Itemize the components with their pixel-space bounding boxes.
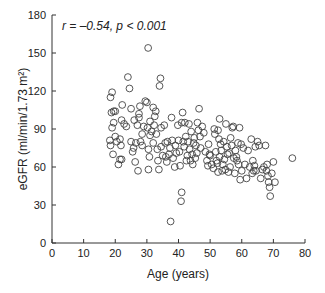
data-point <box>118 142 125 149</box>
y-axis-label: eGFR (ml/min/1.73 m²) <box>16 68 30 191</box>
data-point <box>184 152 191 159</box>
data-point <box>243 175 250 182</box>
data-point <box>235 161 242 168</box>
x-tick-label: 60 <box>236 247 248 259</box>
data-point <box>168 114 175 121</box>
data-point <box>110 108 117 115</box>
data-point <box>157 75 164 82</box>
data-point <box>216 115 223 122</box>
data-point <box>146 153 153 160</box>
data-point <box>199 123 206 130</box>
data-point <box>137 138 144 145</box>
y-tick-label: 90 <box>34 123 46 135</box>
data-point <box>289 155 296 162</box>
data-points <box>106 45 295 225</box>
axes <box>52 15 305 243</box>
data-point <box>139 131 146 138</box>
data-point <box>175 137 182 144</box>
data-point <box>156 83 163 90</box>
data-point <box>167 218 174 225</box>
data-point <box>125 74 132 81</box>
x-axis-ticks: 01020304050607080 <box>49 239 311 259</box>
data-point <box>107 142 114 149</box>
data-point <box>145 146 152 153</box>
x-tick-label: 0 <box>49 247 55 259</box>
data-point <box>238 167 245 174</box>
data-point <box>194 119 201 126</box>
data-point <box>205 141 212 148</box>
y-tick-label: 60 <box>34 161 46 173</box>
data-point <box>147 132 154 139</box>
data-point <box>172 142 179 149</box>
data-point <box>257 175 264 182</box>
data-point <box>200 129 207 136</box>
scatter-chart: 0306090120150180 01020304050607080 r = –… <box>0 0 325 293</box>
data-point <box>143 99 150 106</box>
data-point <box>110 151 117 158</box>
data-point <box>256 142 263 149</box>
data-point <box>112 108 119 115</box>
y-tick-label: 150 <box>28 47 46 59</box>
y-tick-label: 0 <box>40 237 46 249</box>
x-tick-label: 70 <box>267 247 279 259</box>
data-point <box>164 138 171 145</box>
data-point <box>270 159 277 166</box>
y-tick-label: 30 <box>34 199 46 211</box>
data-point <box>223 143 230 150</box>
x-tick-label: 80 <box>299 247 311 259</box>
data-point <box>145 45 152 52</box>
y-tick-label: 120 <box>28 85 46 97</box>
data-point <box>178 189 185 196</box>
data-point <box>119 102 126 109</box>
data-point <box>145 166 152 173</box>
data-point <box>266 184 273 191</box>
data-point <box>137 103 144 110</box>
data-point <box>139 142 146 149</box>
data-point <box>188 128 195 135</box>
data-point <box>134 122 141 129</box>
data-point <box>155 166 162 173</box>
data-point <box>144 124 151 131</box>
data-point <box>262 142 269 149</box>
data-point <box>170 155 177 162</box>
data-point <box>135 167 142 174</box>
x-axis-label: Age (years) <box>147 267 209 281</box>
annotation: r = –0.54, p < 0.001 <box>62 19 167 33</box>
data-point <box>163 159 170 166</box>
data-point <box>186 121 193 128</box>
data-point <box>179 109 186 116</box>
data-point <box>128 105 135 112</box>
data-point <box>272 179 279 186</box>
data-point <box>128 138 135 145</box>
data-point <box>118 156 125 163</box>
data-point <box>237 176 244 183</box>
x-tick-label: 10 <box>78 247 90 259</box>
data-point <box>150 140 157 147</box>
x-tick-label: 30 <box>141 247 153 259</box>
data-point <box>178 198 185 205</box>
y-tick-label: 180 <box>28 9 46 21</box>
data-point <box>236 124 243 131</box>
data-point <box>248 136 255 143</box>
data-point <box>126 85 133 92</box>
data-point <box>223 121 230 128</box>
data-point <box>227 134 234 141</box>
data-point <box>232 147 239 154</box>
data-point <box>132 159 139 166</box>
x-tick-label: 40 <box>172 247 184 259</box>
data-point <box>140 123 147 130</box>
data-point <box>215 169 222 176</box>
data-point <box>196 105 203 112</box>
x-tick-label: 50 <box>204 247 216 259</box>
x-tick-label: 20 <box>109 247 121 259</box>
data-point <box>169 137 176 144</box>
data-point <box>267 193 274 200</box>
data-point <box>151 122 158 129</box>
data-point <box>231 170 238 177</box>
